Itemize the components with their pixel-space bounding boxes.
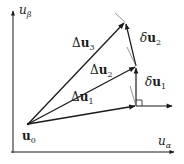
delta-small-u2-vector	[126, 24, 136, 66]
delta-u2-label: Δu2	[90, 64, 113, 81]
origin-point	[27, 123, 29, 125]
tangent-line-2	[127, 47, 136, 66]
delta-small-u1-label: δu1	[145, 76, 166, 93]
u-beta-label: uβ	[19, 4, 31, 21]
delta-u1-label: Δu1	[71, 91, 94, 108]
tangent-line-1	[130, 86, 136, 106]
right-angle-marker	[136, 100, 142, 106]
tangent-line-3	[115, 13, 125, 22]
delta-small-u2-label: δu2	[140, 32, 161, 49]
u-alpha-label: uα	[158, 135, 171, 152]
u0-label: u0	[22, 130, 36, 147]
delta-u3-label: Δu3	[72, 37, 95, 54]
